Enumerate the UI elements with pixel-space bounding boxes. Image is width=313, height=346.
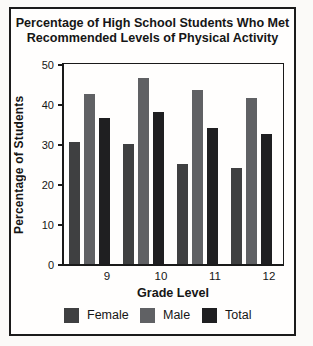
bar-male-grade-10 bbox=[138, 78, 149, 264]
legend-label-male: Male bbox=[163, 308, 190, 323]
chart-card: Percentage of High School Students Who M… bbox=[9, 7, 296, 336]
bar-female-grade-10 bbox=[123, 144, 134, 264]
figure-page: Percentage of High School Students Who M… bbox=[0, 0, 313, 346]
chart-title-line-1: Percentage of High School Students Who M… bbox=[11, 16, 294, 31]
total-swatch-icon bbox=[202, 308, 217, 323]
legend-label-total: Total bbox=[225, 308, 251, 323]
y-tick-label-40: 40 bbox=[14, 98, 54, 112]
bar-total-grade-11 bbox=[207, 128, 218, 264]
bar-male-grade-9 bbox=[84, 94, 95, 264]
y-tick-label-50: 50 bbox=[14, 58, 54, 72]
bar-total-grade-9 bbox=[99, 118, 110, 264]
plot-area bbox=[62, 63, 284, 266]
y-axis-tick-labels: 01020304050 bbox=[11, 65, 57, 265]
bar-female-grade-12 bbox=[231, 168, 242, 264]
bar-female-grade-9 bbox=[69, 142, 80, 264]
legend: Female Male Total bbox=[11, 308, 298, 324]
x-tick-label-grade-11: 11 bbox=[200, 269, 230, 283]
chart-title: Percentage of High School Students Who M… bbox=[11, 16, 294, 46]
y-tick-label-30: 30 bbox=[14, 138, 54, 152]
legend-item-female: Female bbox=[64, 308, 129, 323]
male-swatch-icon bbox=[140, 308, 155, 323]
bar-total-grade-10 bbox=[153, 112, 164, 264]
x-axis-tick-labels: 9101112 bbox=[64, 269, 283, 283]
y-tick-label-20: 20 bbox=[14, 178, 54, 192]
bar-total-grade-12 bbox=[261, 134, 272, 264]
x-tick-label-grade-12: 12 bbox=[254, 269, 284, 283]
bar-male-grade-12 bbox=[246, 98, 257, 264]
x-tick-label-grade-9: 9 bbox=[92, 269, 122, 283]
legend-item-male: Male bbox=[140, 308, 190, 323]
legend-item-total: Total bbox=[202, 308, 251, 323]
bar-male-grade-11 bbox=[192, 90, 203, 264]
y-tick-label-10: 10 bbox=[14, 218, 54, 232]
x-tick-label-grade-10: 10 bbox=[146, 269, 176, 283]
y-tick-label-0: 0 bbox=[14, 258, 54, 272]
x-axis-title: Grade Level bbox=[62, 286, 284, 300]
female-swatch-icon bbox=[64, 308, 79, 323]
legend-label-female: Female bbox=[87, 308, 129, 323]
bar-female-grade-11 bbox=[177, 164, 188, 264]
chart-title-line-2: Recommended Levels of Physical Activity bbox=[11, 31, 294, 46]
